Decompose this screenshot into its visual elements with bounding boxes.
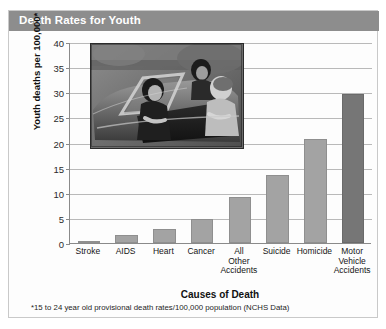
y-axis-tick-label: 0 xyxy=(59,239,64,250)
x-axis-tick-labels: StrokeAIDSHeartCancerAll Other Accidents… xyxy=(69,247,371,287)
y-axis-tick-label: 25 xyxy=(53,113,64,124)
y-axis-tick-label: 35 xyxy=(53,63,64,74)
chart-header-bar: Death Rates for Youth xyxy=(9,11,379,31)
y-axis-tick-label: 40 xyxy=(53,38,64,49)
y-axis-tick-mark xyxy=(66,244,70,245)
bar-homicide xyxy=(304,139,327,243)
bar-cancer xyxy=(191,219,214,243)
y-axis-tick-mark xyxy=(66,118,70,119)
bar-all-other-accidents xyxy=(229,197,252,243)
y-axis-tick-label: 15 xyxy=(53,163,64,174)
bar-heart xyxy=(153,229,176,243)
chart-figure: Death Rates for Youth Youth deaths per 1… xyxy=(8,10,378,318)
y-axis-tick-mark xyxy=(66,43,70,44)
y-axis-tick-mark xyxy=(66,68,70,69)
bar-stroke xyxy=(78,241,101,243)
y-axis-tick-mark xyxy=(66,194,70,195)
x-axis-tick-label: AIDS xyxy=(107,247,145,257)
chart-footnote: *15 to 24 year old provisional death rat… xyxy=(31,303,371,312)
x-axis-tick-label: Cancer xyxy=(182,247,220,257)
y-axis-tick-mark xyxy=(66,219,70,220)
x-axis-title: Causes of Death xyxy=(69,289,371,300)
gridline xyxy=(70,194,372,195)
y-axis-tick-mark xyxy=(66,93,70,94)
y-axis-tick-mark xyxy=(66,169,70,170)
bar-aids xyxy=(115,235,138,243)
gridline xyxy=(70,169,372,170)
x-axis-tick-label: Suicide xyxy=(258,247,296,257)
y-axis-tick-labels: 0510152025303540 xyxy=(33,43,64,244)
x-axis-tick-label: All Other Accidents xyxy=(220,247,258,276)
bar-motor-vehicle-accidents xyxy=(342,94,365,243)
y-axis-tick-label: 5 xyxy=(59,213,64,224)
y-axis-tick-label: 10 xyxy=(53,188,64,199)
photo-teens-in-convertible-car xyxy=(90,43,244,149)
y-axis-tick-label: 30 xyxy=(53,88,64,99)
x-axis-tick-label: Heart xyxy=(145,247,183,257)
gridline xyxy=(70,219,372,220)
x-axis-tick-label: Stroke xyxy=(69,247,107,257)
x-axis-tick-label: Motor Vehicle Accidents xyxy=(333,247,371,276)
y-axis-tick-mark xyxy=(66,144,70,145)
y-axis-tick-label: 20 xyxy=(53,138,64,149)
x-axis-tick-label: Homicide xyxy=(296,247,334,257)
bar-suicide xyxy=(266,175,289,243)
